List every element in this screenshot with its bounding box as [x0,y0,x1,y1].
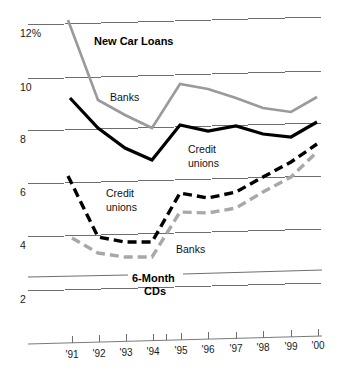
annotation-cds-unions: unions [106,201,137,213]
y-tick-12: 12% [20,27,41,39]
x-tick-92: '92 [92,348,105,359]
x-tick-93: '93 [119,347,132,358]
annotation-cds-banks: Banks [176,243,205,255]
x-tick-94: '94 [146,346,159,357]
annotation-cds-title-1: 6-Month [132,272,175,284]
x-tick-91: '91 [65,349,78,360]
annotation-cds-title-2: CDs [144,285,166,297]
annotation-cds-credit: Credit [106,187,134,199]
x-tick-99: '99 [284,341,297,352]
x-tick-00: '00 [311,340,324,351]
annotation-loans-unions: unions [188,157,219,169]
y-tick-8: 8 [20,133,26,145]
interest-rate-line-chart: 12% 10 8 6 4 2 New Car Loans Banks Credi… [0,0,338,378]
y-tick-10: 10 [20,81,32,93]
annotation-new-car-loans-title: New Car Loans [94,35,173,47]
x-tick-96: '96 [201,344,214,355]
y-tick-4: 4 [20,239,26,251]
x-tick-98: '98 [256,342,269,353]
x-tick-95: '95 [174,345,187,356]
x-tick-97: '97 [229,343,242,354]
y-tick-6: 6 [20,186,26,198]
annotation-loans-credit: Credit [188,143,216,155]
chart-background [0,0,338,378]
chart-svg: 12% 10 8 6 4 2 New Car Loans Banks Credi… [0,0,338,378]
y-tick-2: 2 [20,293,26,305]
annotation-loans-banks: Banks [110,91,139,103]
